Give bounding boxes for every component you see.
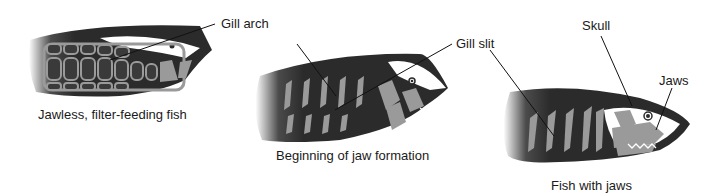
caption-jaw-formation: Beginning of jaw formation [276,148,429,163]
label-gill-arch: Gill arch [221,16,269,31]
caption-fish-with-jaws: Fish with jaws [551,178,632,193]
label-skull: Skull [582,18,610,33]
jawed-fish-illustration [503,88,690,162]
jaw-evolution-diagram: Gill arch Gill slit Skull Jaws Jawless, … [0,0,717,196]
label-jaws: Jaws [659,73,689,88]
jaw-formation-illustration [255,54,448,142]
label-gill-slit: Gill slit [456,36,494,51]
caption-jawless-fish: Jawless, filter-feeding fish [38,107,187,122]
jawless-fish-illustration [29,25,212,96]
